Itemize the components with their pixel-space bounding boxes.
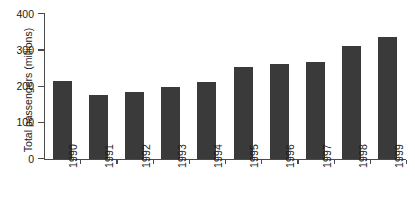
y-tick-label: 100 — [0, 116, 34, 128]
bar-slot — [125, 0, 144, 159]
x-tick-mark — [225, 160, 226, 164]
bar-1999 — [378, 37, 397, 159]
bar-slot — [197, 0, 216, 159]
x-tick-label-1996: 1996 — [284, 144, 296, 168]
x-tick-label-1991: 1991 — [103, 144, 115, 168]
x-tick-mark — [261, 160, 262, 164]
x-tick-mark — [153, 160, 154, 164]
bars-layer — [44, 0, 406, 159]
bar-slot — [234, 0, 253, 159]
y-tick-label: 200 — [0, 80, 34, 92]
bar-chart: Total passengers (millions) 010020030040… — [0, 0, 415, 219]
y-tick-label: 0 — [0, 153, 34, 165]
x-tick-mark — [370, 160, 371, 164]
bar-slot — [306, 0, 325, 159]
x-tick-label-1998: 1998 — [357, 144, 369, 168]
x-tick-label-1990: 1990 — [67, 144, 79, 168]
x-tick-mark — [189, 160, 190, 164]
x-tick-label-1997: 1997 — [321, 144, 333, 168]
bar-slot — [53, 0, 72, 159]
x-tick-mark — [334, 160, 335, 164]
bar-slot — [378, 0, 397, 159]
bar-slot — [89, 0, 108, 159]
x-tick-label-1994: 1994 — [212, 144, 224, 168]
x-tick-mark — [297, 160, 298, 164]
x-tick-mark — [406, 160, 407, 164]
x-tick-mark — [116, 160, 117, 164]
bar-slot — [270, 0, 289, 159]
bar-1998 — [342, 46, 361, 159]
x-tick-label-1999: 1999 — [393, 144, 405, 168]
y-tick-label: 300 — [0, 44, 34, 56]
bar-slot — [342, 0, 361, 159]
bar-slot — [161, 0, 180, 159]
x-tick-label-1995: 1995 — [248, 144, 260, 168]
y-tick-label: 400 — [0, 8, 34, 20]
x-tick-label-1992: 1992 — [140, 144, 152, 168]
x-tick-mark — [80, 160, 81, 164]
x-tick-label-1993: 1993 — [176, 144, 188, 168]
